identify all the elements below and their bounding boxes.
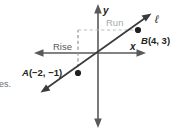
margin-text-fragment: es. (0, 80, 11, 89)
coordinate-plane-graphic (0, 0, 181, 131)
x-axis-label: x (130, 42, 136, 52)
run-label: Run (106, 18, 123, 28)
point-A-name: A (22, 67, 29, 78)
y-axis-label: y (103, 6, 109, 16)
point-B-name: B (141, 35, 148, 46)
y-axis (94, 4, 102, 128)
point-B-marker (135, 27, 141, 33)
point-A-label: A(−2, −1) (22, 68, 62, 78)
point-A-coords: (−2, −1) (29, 67, 62, 78)
slope-diagram-figure: y x ℓ B(4, 3) A(−2, −1) Rise Run es. (0, 0, 181, 131)
line-name-label: ℓ (155, 14, 159, 25)
point-A-marker (75, 70, 81, 76)
rise-label: Rise (53, 42, 72, 52)
point-B-coords: (4, 3) (148, 35, 170, 46)
point-B-label: B(4, 3) (141, 36, 170, 46)
